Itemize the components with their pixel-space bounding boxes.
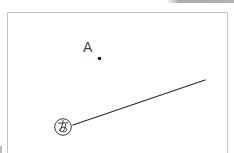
cropped-left-element-edge (0, 146, 2, 153)
figure-layer (8, 13, 228, 153)
line-segment[interactable] (73, 80, 205, 125)
app-screen: A (0, 0, 234, 153)
segment-marker (55, 119, 72, 136)
drawing-canvas[interactable]: A (7, 12, 228, 153)
cropped-toolbar-edge (166, 0, 234, 3)
point-a-dot[interactable] (98, 57, 102, 61)
